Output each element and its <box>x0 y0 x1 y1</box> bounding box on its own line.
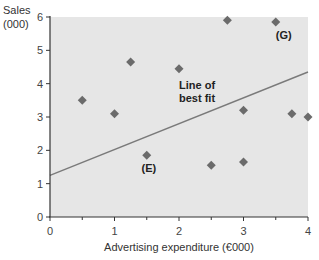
x-ticks: 01234 <box>47 217 311 237</box>
y-ticks: 0123456 <box>37 11 50 223</box>
x-tick-label: 3 <box>240 225 246 237</box>
plot-area <box>50 17 308 217</box>
y-tick-label: 1 <box>37 178 43 190</box>
y-tick-label: 0 <box>37 211 43 223</box>
y-tick-label: 4 <box>37 78 43 90</box>
x-tick-label: 0 <box>47 225 53 237</box>
y-axis-title-line1: Sales <box>3 4 31 16</box>
y-tick-label: 6 <box>37 11 43 23</box>
scatter-chart: 0123456 01234 Line ofbest fit(E)(G) Sale… <box>0 0 319 260</box>
chart-annotation: Line of <box>179 79 215 91</box>
x-tick-label: 1 <box>111 225 117 237</box>
chart-annotation: best fit <box>179 92 215 104</box>
y-tick-label: 3 <box>37 111 43 123</box>
y-axis-title-line2: (000) <box>3 18 29 30</box>
y-tick-label: 2 <box>37 144 43 156</box>
x-tick-label: 4 <box>305 225 311 237</box>
x-tick-label: 2 <box>176 225 182 237</box>
y-tick-label: 5 <box>37 44 43 56</box>
x-axis-title: Advertising expenditure (€000) <box>104 241 254 253</box>
chart-annotation: (G) <box>276 29 292 41</box>
chart-annotation: (E) <box>142 162 157 174</box>
